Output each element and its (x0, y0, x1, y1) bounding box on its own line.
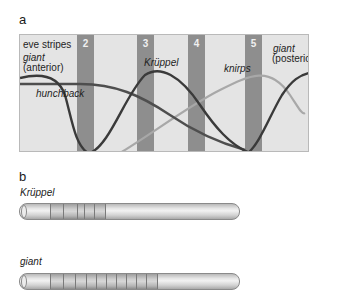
tube-giant (19, 273, 240, 290)
band-divider (77, 204, 78, 219)
band-divider (126, 274, 127, 289)
band-divider (63, 274, 64, 289)
band-divider (63, 204, 64, 219)
label-giant-anterior-qualifier: (anterior) (23, 62, 64, 73)
tube-title-giant: giant (20, 256, 42, 267)
band-divider (86, 274, 87, 289)
label-hunchback: hunchback (36, 88, 84, 99)
gap-gene-expression-plot: 2 3 4 5 eve stripes giant (anterior) hun… (19, 34, 309, 152)
tube-end-cap (21, 275, 27, 288)
tube-kruppel (19, 203, 240, 220)
knirps-curve (120, 76, 305, 152)
band-divider (116, 274, 117, 289)
band-divider (84, 204, 85, 219)
giant-posterior-curve (248, 73, 309, 152)
band-divider (106, 274, 107, 289)
band-divider (157, 274, 158, 289)
band-divider (50, 204, 51, 219)
band-divider (105, 204, 106, 219)
panel-b-label: b (19, 169, 26, 184)
band-divider (96, 274, 97, 289)
label-kruppel: Krüppel (144, 57, 178, 68)
tube-end-cap (21, 205, 27, 218)
band-divider (94, 204, 95, 219)
label-knirps: knirps (224, 63, 251, 74)
label-giant-posterior-qualifier: (posterior) (272, 53, 309, 64)
band-divider (75, 274, 76, 289)
tube-title-kruppel: Krüppel (20, 187, 54, 198)
legend-label-eve-stripes: eve stripes (23, 39, 71, 50)
band-divider (136, 274, 137, 289)
band-divider (50, 274, 51, 289)
kruppel-curve (90, 71, 250, 152)
expression-band (50, 274, 157, 289)
panel-a-label: a (19, 12, 26, 27)
band-divider (146, 274, 147, 289)
